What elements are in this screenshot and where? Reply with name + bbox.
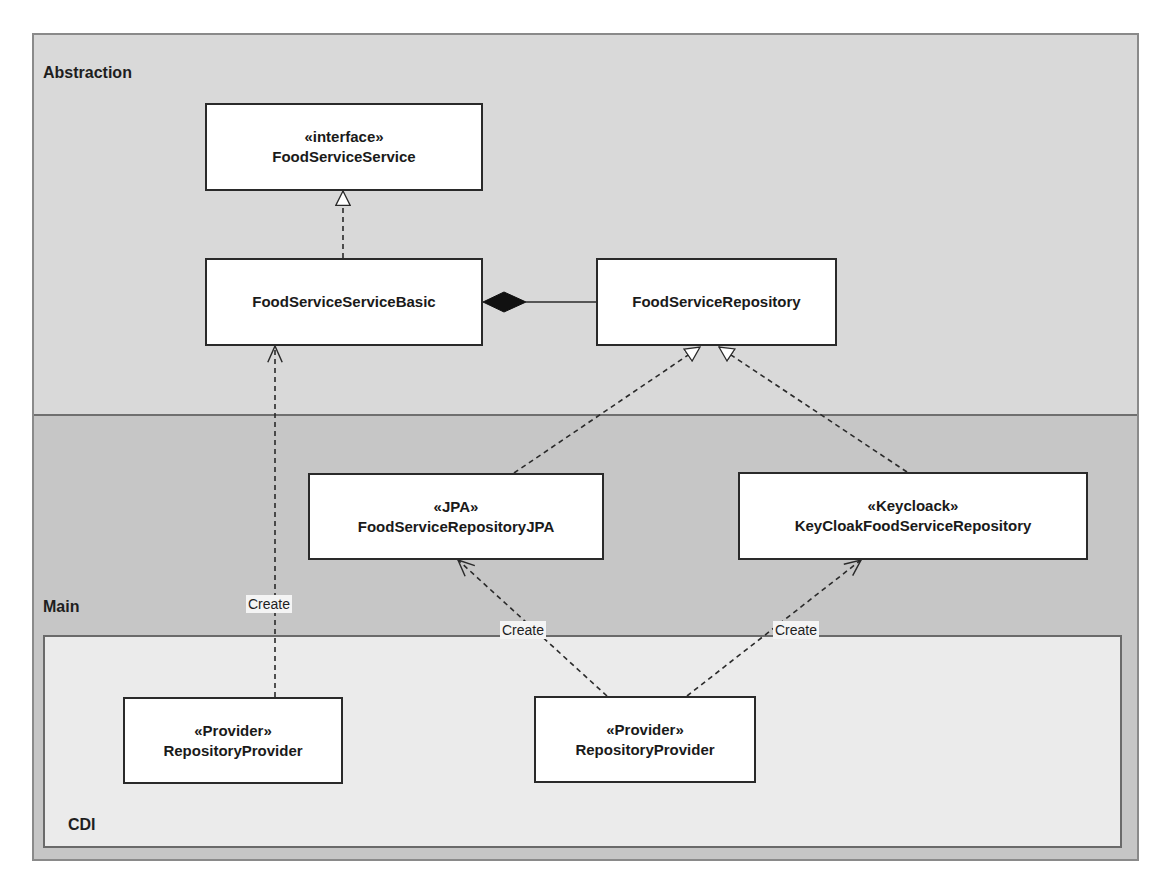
stereotype-label: «Provider» [606,720,684,740]
composition-diamond-icon [483,292,526,312]
edge-label-create-jpa: Create [500,621,546,639]
realization-jpa-to-repository [514,347,700,473]
class-food-service-service[interactable]: «interface» FoodServiceService [205,103,483,191]
class-keycloak-food-service-repository[interactable]: «Keycloack» KeyCloakFoodServiceRepositor… [738,472,1088,560]
class-name: RepositoryProvider [163,741,302,761]
class-repository-provider-left[interactable]: «Provider» RepositoryProvider [123,697,343,784]
class-name: RepositoryProvider [575,740,714,760]
class-food-service-repository[interactable]: FoodServiceRepository [596,258,837,346]
realization-keycloak-to-repository [719,347,907,472]
stereotype-label: «Provider» [194,721,272,741]
stereotype-label: «JPA» [434,497,479,517]
class-food-service-repository-jpa[interactable]: «JPA» FoodServiceRepositoryJPA [308,473,604,560]
class-name: FoodServiceRepository [632,292,800,312]
class-name: FoodServiceRepositoryJPA [358,517,554,537]
edge-label-create-left: Create [246,595,292,613]
stereotype-label: «interface» [304,127,383,147]
class-name: KeyCloakFoodServiceRepository [795,516,1032,536]
class-name: FoodServiceServiceBasic [252,292,435,312]
edge-label-create-keycloak: Create [773,621,819,639]
class-repository-provider-right[interactable]: «Provider» RepositoryProvider [534,696,756,783]
stereotype-label: «Keycloack» [868,496,959,516]
class-food-service-service-basic[interactable]: FoodServiceServiceBasic [205,258,483,346]
class-name: FoodServiceService [272,147,415,167]
